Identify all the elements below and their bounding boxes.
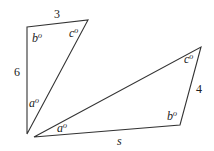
tri2-angle-c-label: co [184,52,193,66]
tri1-angle-c-label: co [69,26,78,40]
tri1-angle-a-label: ao [29,96,39,110]
tri1-angle-b-label: bo [32,31,42,45]
tri2-side-bottom-label: s [117,134,122,148]
tri2-angle-b-label: bo [167,109,177,123]
triangles-figure: 3 6 bo co ao ao co 4 bo s [0,0,214,151]
tri1-side-left-label: 6 [14,65,20,79]
tri2-side-right-label: 4 [196,82,202,96]
tri1-side-top-label: 3 [54,7,60,21]
diagram-canvas: 3 6 bo co ao ao co 4 bo s [0,0,214,151]
tri2-angle-a-label: ao [57,121,67,135]
